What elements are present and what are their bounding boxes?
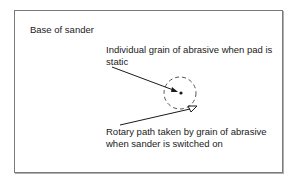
abrasive-grain-dot [179, 91, 182, 94]
static-grain-leader-line [112, 67, 176, 91]
rotary-path-leader-line [120, 109, 190, 125]
diagram-graphics [0, 0, 300, 184]
static-grain-arrowhead-icon [171, 87, 178, 92]
rotary-path-arrowhead-icon [188, 106, 197, 112]
